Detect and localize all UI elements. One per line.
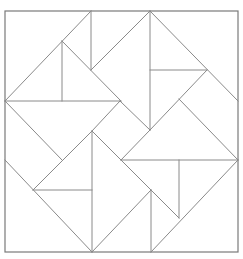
pinwheel-diagram	[0, 0, 243, 259]
outer-square	[5, 11, 238, 252]
